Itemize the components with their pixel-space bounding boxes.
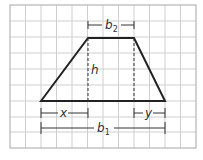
y-label: y <box>144 106 153 120</box>
b1-label: b1 <box>97 121 110 137</box>
height-label: h <box>91 63 99 77</box>
trapezoid-diagram: b2 h x y b1 <box>0 0 203 160</box>
diagram-canvas: b2 h x y b1 <box>0 0 203 160</box>
b2-label: b2 <box>105 18 118 34</box>
x-label: x <box>59 106 68 120</box>
